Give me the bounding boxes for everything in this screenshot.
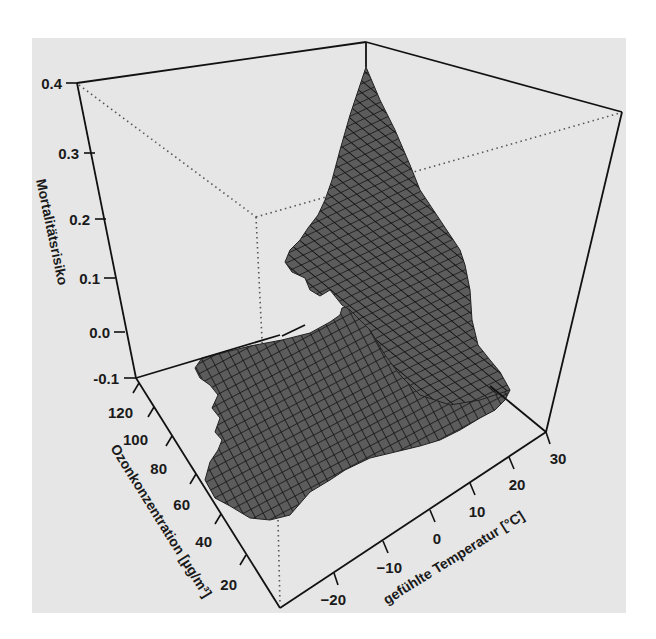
x-tick-label: 0: [433, 530, 441, 547]
z-tick-label: 0.2: [69, 211, 90, 228]
y-tick-label: 60: [173, 496, 190, 513]
z-tick-label: 0.3: [58, 145, 79, 162]
y-tick-label: 100: [123, 431, 148, 448]
x-tick-label: 20: [509, 476, 526, 493]
x-tick-label: −10: [377, 559, 402, 576]
y-tick-label: 40: [195, 533, 212, 550]
z-tick-label: 0.0: [89, 324, 110, 341]
x-tick-label: 10: [469, 503, 486, 520]
y-tick-label: 20: [220, 576, 237, 593]
z-tick-label: 0.1: [79, 270, 100, 287]
surface-plot: 0.4 0.3 0.2 0.1 0.0 -0.1 Mortalitätsrisi…: [0, 0, 656, 639]
y-tick-label: 120: [108, 404, 133, 421]
x-tick-label: −20: [321, 591, 346, 608]
x-tick-label: 30: [550, 450, 567, 467]
z-tick-label: 0.4: [41, 75, 63, 92]
y-tick-label: 80: [150, 460, 167, 477]
z-tick-label: -0.1: [93, 370, 119, 387]
